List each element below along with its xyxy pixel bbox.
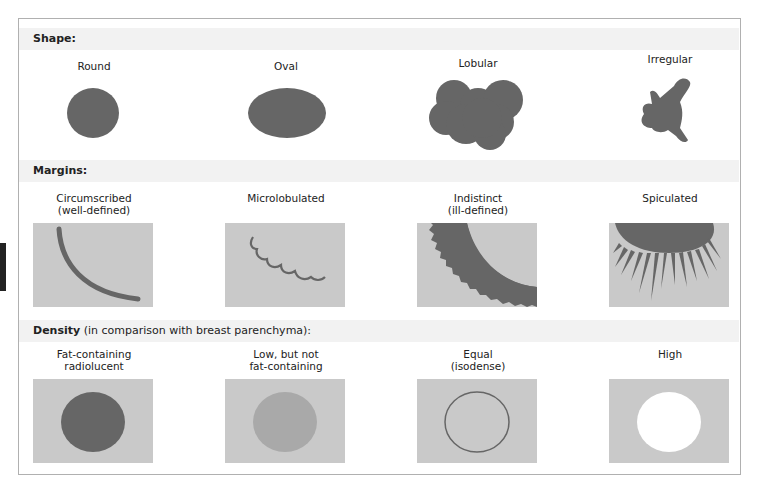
density-label-line2: fat-containing <box>206 360 366 372</box>
section-header-shape: Shape: <box>19 28 739 50</box>
density-label-equal: Equal (isodense) <box>398 348 558 372</box>
low-density-icon <box>225 379 345 463</box>
margin-label-indistinct: Indistinct (ill-defined) <box>398 192 558 216</box>
equal-density-icon <box>417 379 537 463</box>
circumscribed-margin-icon <box>33 223 153 307</box>
oval-mass-icon <box>242 84 332 142</box>
section-header-margins: Margins: <box>19 160 739 182</box>
section-header-density: Density (in comparison with breast paren… <box>19 320 739 342</box>
shape-label-lobular: Lobular <box>398 57 558 69</box>
margin-label-line2: (well-defined) <box>14 204 174 216</box>
microlobulated-margin-icon <box>225 223 345 307</box>
margin-label-line1: Spiculated <box>590 192 750 204</box>
high-density-icon <box>609 379 729 463</box>
round-mass-icon <box>60 84 122 142</box>
density-label-fat: Fat-containing radiolucent <box>14 348 174 372</box>
shape-label-round: Round <box>14 60 174 72</box>
density-label-low: Low, but not fat-containing <box>206 348 366 372</box>
margin-label-circumscribed: Circumscribed (well-defined) <box>14 192 174 216</box>
density-label-high: High <box>590 348 750 360</box>
shape-heading: Shape: <box>33 32 76 45</box>
density-label-line1: Fat-containing <box>14 348 174 360</box>
margin-label-line2: (ill-defined) <box>398 204 558 216</box>
density-label-line2: radiolucent <box>14 360 174 372</box>
spiculated-margin-icon <box>609 223 729 307</box>
margin-label-microlobulated: Microlobulated <box>206 192 366 204</box>
margin-label-spiculated: Spiculated <box>590 192 750 204</box>
side-tab-marker <box>0 243 6 291</box>
irregular-mass-icon <box>634 76 704 148</box>
density-heading-rest: (in comparison with breast parenchyma): <box>80 324 311 337</box>
density-label-line1: Equal <box>398 348 558 360</box>
density-label-line2: (isodense) <box>398 360 558 372</box>
margin-label-line1: Microlobulated <box>206 192 366 204</box>
shape-label-oval: Oval <box>206 60 366 72</box>
shape-label-irregular: Irregular <box>590 53 750 65</box>
density-label-line1: Low, but not <box>206 348 366 360</box>
density-label-line1: High <box>590 348 750 360</box>
fat-density-icon <box>33 379 153 463</box>
density-heading: Density <box>33 324 80 337</box>
lobular-mass-icon <box>428 76 538 152</box>
margin-label-line1: Circumscribed <box>14 192 174 204</box>
indistinct-margin-icon <box>417 223 537 307</box>
margin-label-line1: Indistinct <box>398 192 558 204</box>
margins-heading: Margins: <box>33 164 87 177</box>
